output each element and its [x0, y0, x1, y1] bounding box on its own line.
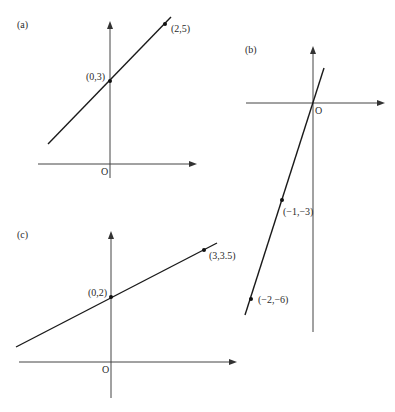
panel-a: (a) O (0,3) (2,5)	[17, 17, 197, 178]
panel-c-point-3-3p5	[202, 248, 206, 252]
panel-a-x-axis-arrow-icon	[189, 161, 197, 167]
panel-c-label: (c)	[17, 229, 28, 241]
panel-a-label: (a)	[17, 19, 28, 31]
panel-a-point-label-0-3: (0,3)	[86, 71, 105, 83]
panel-c-y-axis-arrow-icon	[108, 231, 114, 239]
panel-b-point-label-neg1-neg3: (−1,−3)	[283, 206, 313, 218]
panel-c-point-label-3-3p5: (3,3.5)	[209, 250, 236, 262]
panel-b-point-neg1-neg3	[280, 198, 284, 202]
panel-c-x-axis-arrow-icon	[229, 359, 237, 365]
panel-a-point-2-5	[163, 22, 167, 26]
panel-a-y-axis-arrow-icon	[107, 21, 113, 29]
panel-c-point-label-0-2: (0,2)	[88, 287, 107, 299]
panel-a-point-label-2-5: (2,5)	[171, 23, 190, 35]
panel-b-x-axis-arrow-icon	[377, 100, 385, 106]
panel-b-point-label-neg2-neg6: (−2,−6)	[258, 294, 288, 306]
panel-b-y-axis-arrow-icon	[310, 46, 316, 54]
panel-c-origin-label: O	[102, 364, 109, 375]
panel-a-point-0-3	[108, 79, 112, 83]
panel-c: (c) O (0,2) (3,3.5)	[16, 229, 237, 398]
panel-b: (b) O (−1,−3) (−2,−6)	[245, 44, 385, 332]
panel-b-graph-line	[245, 68, 324, 315]
panel-c-point-0-2	[109, 295, 113, 299]
panel-a-origin-label: O	[101, 166, 108, 177]
panel-c-graph-line	[16, 243, 217, 347]
panel-b-label: (b)	[245, 44, 257, 56]
line-graphs-figure: (a) O (0,3) (2,5) (b) O (−1,−3) (−2,−6)	[0, 0, 395, 412]
panel-b-point-neg2-neg6	[249, 297, 253, 301]
panel-b-origin-label: O	[315, 105, 322, 116]
